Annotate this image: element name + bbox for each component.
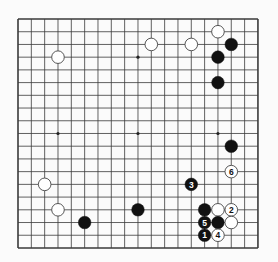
white-stone	[185, 38, 198, 51]
move-number-label: 1	[202, 230, 207, 240]
white-stone	[212, 25, 225, 38]
black-stone	[225, 38, 238, 51]
black-stone: 5	[198, 216, 211, 229]
white-stone	[38, 178, 51, 191]
move-number-label: 2	[229, 205, 234, 215]
move-number-label: 4	[216, 230, 221, 240]
white-stone: 4	[212, 229, 225, 242]
star-point	[216, 132, 219, 135]
black-stone: 3	[185, 178, 198, 191]
black-stone	[198, 204, 211, 217]
white-stone	[145, 38, 158, 51]
black-stone	[78, 216, 91, 229]
black-stone: 1	[198, 229, 211, 242]
black-stone	[212, 216, 225, 229]
white-stone	[52, 51, 65, 64]
star-point	[136, 56, 139, 59]
white-stone: 6	[225, 165, 238, 178]
white-stone	[212, 204, 225, 217]
move-number-label: 6	[229, 167, 234, 177]
move-number-label: 3	[189, 180, 194, 190]
white-stone	[52, 204, 65, 217]
black-stone	[225, 140, 238, 153]
white-stone: 2	[225, 204, 238, 217]
black-stone	[212, 76, 225, 89]
black-stone	[132, 204, 145, 217]
black-stone	[212, 51, 225, 64]
go-board[interactable]: 632514	[0, 0, 278, 262]
white-stone	[225, 216, 238, 229]
star-point	[136, 132, 139, 135]
move-number-label: 5	[202, 218, 207, 228]
star-point	[56, 132, 59, 135]
